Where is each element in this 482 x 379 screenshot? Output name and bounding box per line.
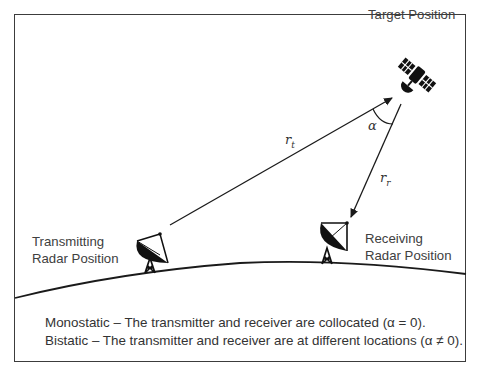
receiving-label-line1: Receiving bbox=[365, 230, 423, 247]
alpha-symbol: α bbox=[368, 118, 377, 133]
transmitter-dish-icon bbox=[136, 232, 168, 273]
rr-symbol: rr bbox=[380, 170, 391, 188]
receiver-dish-icon bbox=[320, 221, 349, 264]
target-position-label: Target Position bbox=[368, 6, 455, 23]
rt-symbol: rt bbox=[285, 132, 295, 150]
transmitting-label-line1: Transmitting bbox=[32, 233, 104, 250]
caption-bistatic: Bistatic – The transmitter and receiver … bbox=[45, 333, 463, 348]
ground-curve bbox=[15, 262, 466, 298]
transmitting-label-line2: Radar Position bbox=[32, 250, 119, 267]
caption-monostatic: Monostatic – The transmitter and receive… bbox=[45, 315, 426, 330]
satellite-icon bbox=[388, 56, 437, 104]
transmit-path-line bbox=[170, 98, 392, 225]
receiving-label-line2: Radar Position bbox=[365, 247, 452, 264]
